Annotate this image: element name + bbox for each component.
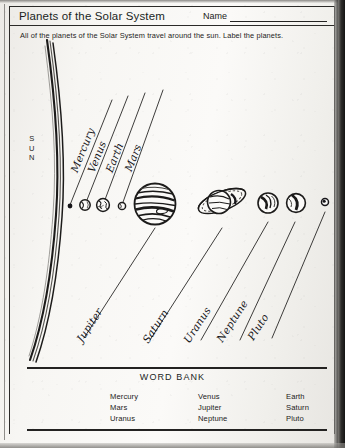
header-divider [9,25,335,26]
sun-letter-u: U [29,144,35,154]
word-bank-item: Pluto [286,414,338,424]
word-bank-columns: Mercury Mars Uranus Venus Jupiter Neptun… [110,392,338,425]
scan-edge-top [0,0,345,3]
name-field-line[interactable] [230,21,327,22]
name-field-label: Name [203,11,227,21]
scan-edge-bottom [0,443,345,448]
instructions-text: All of the planets of the Solar System t… [20,31,283,40]
scan-edge-right [338,0,345,448]
word-bank-item: Neptune [198,414,250,424]
sun-letter-n: N [29,153,35,163]
word-bank-item: Mars [110,403,162,413]
word-bank-item: Venus [198,392,250,402]
word-bank-title: WORD BANK [0,372,345,382]
word-bank-item: Jupiter [198,403,250,413]
word-bank-bottom-divider [27,429,327,431]
sun-label: S U N [29,134,35,163]
page-border-top [9,6,335,7]
worksheet-page: Planets of the Solar System Name All of … [0,0,345,448]
word-bank-item: Earth [286,392,338,402]
sun-letter-s: S [29,134,35,144]
word-bank-item: Uranus [110,414,162,424]
word-bank-item: Mercury [110,392,162,402]
page-border-left [9,6,10,434]
word-bank-column-2: Venus Jupiter Neptune [198,392,250,425]
page-title: Planets of the Solar System [19,10,165,22]
word-bank-column-3: Earth Saturn Pluto [286,392,338,425]
word-bank-item: Saturn [286,403,338,413]
word-bank-column-1: Mercury Mars Uranus [110,392,162,425]
word-bank-top-divider [27,367,327,369]
